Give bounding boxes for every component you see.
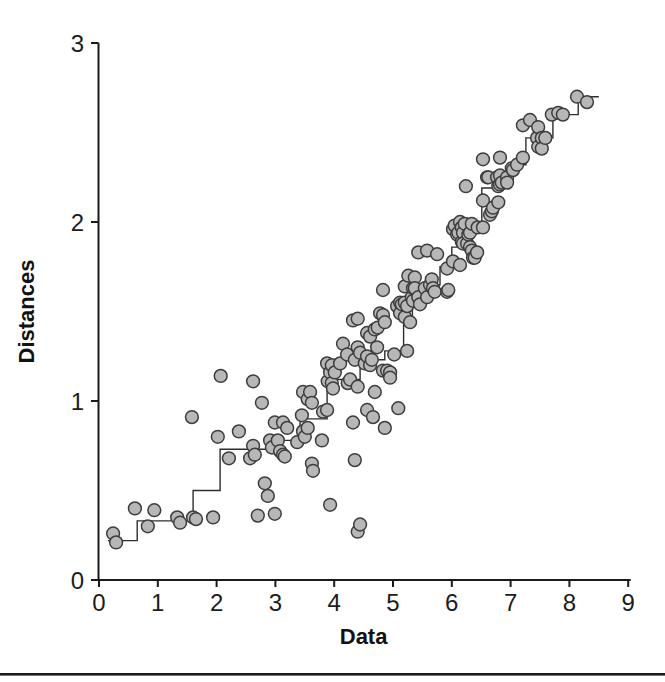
- data-point: [401, 345, 414, 358]
- data-point: [214, 370, 227, 383]
- scatter-step-chart: 01234567890123DataDistances: [0, 0, 665, 682]
- data-point: [384, 371, 397, 384]
- data-point: [367, 411, 380, 424]
- y-tick-label: 2: [71, 209, 84, 236]
- data-point: [347, 416, 360, 429]
- data-point: [477, 153, 490, 166]
- data-point: [454, 259, 467, 272]
- data-point: [233, 425, 246, 438]
- data-point: [110, 536, 123, 549]
- data-point: [351, 312, 364, 325]
- data-point: [207, 511, 220, 524]
- data-point: [539, 132, 552, 145]
- data-point: [281, 422, 294, 435]
- data-point: [148, 504, 161, 517]
- y-tick-label: 3: [71, 30, 84, 57]
- data-point: [190, 513, 203, 526]
- data-point: [581, 96, 594, 109]
- data-point: [321, 404, 334, 417]
- data-point: [471, 246, 484, 259]
- x-tick-label: 3: [269, 589, 282, 616]
- data-point: [174, 516, 187, 529]
- data-point: [494, 151, 507, 164]
- data-point: [392, 402, 405, 415]
- x-axis-title: Data: [340, 624, 388, 649]
- data-point: [517, 151, 530, 164]
- x-tick-label: 8: [563, 589, 576, 616]
- data-point: [428, 285, 441, 298]
- data-point: [129, 502, 142, 515]
- data-point: [141, 520, 154, 533]
- x-tick-label: 1: [151, 589, 164, 616]
- data-point: [248, 448, 261, 461]
- data-point: [307, 464, 320, 477]
- data-point: [442, 284, 455, 297]
- page-divider-rule: [0, 673, 665, 676]
- data-point: [278, 450, 291, 463]
- data-point: [324, 498, 337, 511]
- data-point: [371, 341, 384, 354]
- data-point: [348, 454, 361, 467]
- data-point: [460, 180, 473, 193]
- data-point: [557, 108, 570, 121]
- data-point: [492, 196, 505, 209]
- data-point: [301, 422, 314, 435]
- data-point: [378, 422, 391, 435]
- x-tick-label: 7: [504, 589, 517, 616]
- data-point: [477, 221, 490, 234]
- y-axis-title: Distances: [14, 260, 39, 364]
- x-tick-label: 0: [92, 589, 105, 616]
- y-tick-label: 1: [71, 388, 84, 415]
- data-point: [327, 382, 340, 395]
- data-point: [223, 452, 236, 465]
- data-point: [368, 386, 381, 399]
- data-point: [268, 507, 281, 520]
- data-point: [306, 396, 319, 409]
- x-tick-label: 4: [328, 589, 341, 616]
- data-point: [186, 411, 199, 424]
- data-point: [351, 380, 364, 393]
- data-point: [378, 316, 391, 329]
- data-point: [251, 509, 264, 522]
- x-tick-label: 9: [622, 589, 635, 616]
- data-point: [377, 284, 390, 297]
- data-point: [258, 477, 271, 490]
- data-point: [354, 518, 367, 531]
- data-point: [501, 176, 514, 189]
- y-tick-label: 0: [71, 567, 84, 594]
- data-point: [316, 434, 329, 447]
- x-tick-label: 5: [386, 589, 399, 616]
- data-point: [404, 316, 417, 329]
- data-point: [256, 396, 269, 409]
- data-point: [388, 348, 401, 361]
- data-point: [431, 248, 444, 261]
- x-tick-label: 6: [445, 589, 458, 616]
- data-point: [261, 490, 274, 503]
- data-point: [296, 409, 309, 422]
- data-point: [365, 353, 378, 366]
- scanned-figure-page: 01234567890123DataDistances: [0, 0, 665, 682]
- x-tick-label: 2: [210, 589, 223, 616]
- data-point: [211, 430, 224, 443]
- data-point: [247, 375, 260, 388]
